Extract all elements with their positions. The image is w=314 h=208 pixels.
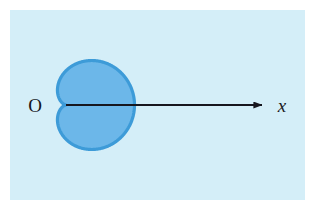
cardioid-figure-svg: O x [0, 0, 314, 208]
x-axis-label: x [277, 95, 287, 116]
figure-root: O x [0, 0, 314, 208]
origin-label: O [28, 95, 42, 116]
